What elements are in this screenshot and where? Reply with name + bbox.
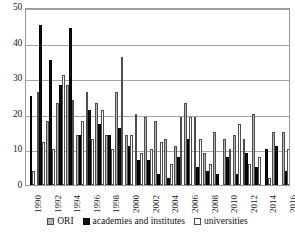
bar-univ-1999: [121, 57, 124, 185]
x-tick-label-2002: 2002: [152, 195, 161, 213]
bar-univ-1994: [72, 100, 75, 185]
y-tick-label: 40: [13, 39, 22, 49]
x-tick-label-1994: 1994: [73, 195, 82, 213]
legend-swatch-acad-icon: [83, 218, 90, 225]
y-axis: 01020304050: [0, 0, 25, 187]
bar-acad-2009: [216, 174, 219, 185]
x-tick-label-2008: 2008: [211, 195, 220, 213]
bar-univ-1995: [81, 121, 84, 185]
bar-univ-1996: [91, 139, 94, 185]
x-axis: 1990199219941996199820002002200420062008…: [25, 187, 290, 215]
legend-swatch-ori-icon: [47, 218, 54, 225]
bar-univ-2000: [130, 135, 133, 185]
bar-univ-1991: [42, 142, 45, 185]
year-group: [242, 9, 252, 185]
year-group: [134, 9, 144, 185]
year-group: [262, 9, 272, 185]
bar-univ-1998: [111, 149, 114, 185]
year-group: [163, 9, 173, 185]
year-group: [46, 9, 56, 185]
legend-item-ori[interactable]: ORI: [47, 216, 73, 226]
year-group: [212, 9, 222, 185]
x-tick-label-2000: 2000: [132, 195, 141, 213]
year-group: [232, 9, 242, 185]
y-tick-label: 10: [13, 145, 22, 155]
year-group: [222, 9, 232, 185]
bar-univ-2002: [150, 149, 153, 185]
bar-univ-2005: [180, 117, 183, 185]
year-group: [271, 9, 281, 185]
x-tick-label-2006: 2006: [191, 195, 200, 213]
x-tick-label-1992: 1992: [54, 195, 63, 213]
year-group: [193, 9, 203, 185]
bar-univ-2011: [238, 124, 241, 185]
year-group: [144, 9, 154, 185]
year-group: [124, 9, 134, 185]
bar-univ-1990: [32, 171, 35, 185]
year-group: [154, 9, 164, 185]
year-group: [95, 9, 105, 185]
year-group: [114, 9, 124, 185]
x-tick-label-1996: 1996: [93, 195, 102, 213]
bar-univ-1997: [101, 110, 104, 185]
legend-label: universities: [204, 216, 248, 226]
year-group: [36, 9, 46, 185]
year-group: [281, 9, 290, 185]
year-group: [55, 9, 65, 185]
legend-label: ORI: [57, 216, 73, 226]
year-group: [65, 9, 75, 185]
bar-univ-2007: [199, 139, 202, 185]
legend-label: academies and institutes: [93, 216, 185, 226]
bar-chart: 01020304050 1990199219941996199820002002…: [0, 0, 295, 234]
year-group: [105, 9, 115, 185]
bar-univ-2003: [160, 142, 163, 185]
y-tick-label: 0: [17, 181, 22, 191]
bar-univ-2012: [248, 164, 251, 185]
x-tick-label-2016: 2016: [289, 195, 295, 213]
legend-item-acad[interactable]: academies and institutes: [83, 216, 185, 226]
plot-area: [25, 8, 290, 186]
year-group: [183, 9, 193, 185]
x-tick-label-2014: 2014: [269, 195, 278, 213]
year-group: [203, 9, 213, 185]
bar-univ-2004: [170, 164, 173, 185]
bar-univ-2014: [268, 178, 271, 185]
bar-univ-2010: [229, 149, 232, 185]
year-group: [85, 9, 95, 185]
bars-layer: [26, 9, 289, 185]
bar-univ-2008: [209, 164, 212, 185]
year-group: [173, 9, 183, 185]
x-tick-label-2004: 2004: [171, 195, 180, 213]
legend-item-univ[interactable]: universities: [194, 216, 248, 226]
bar-univ-2001: [140, 153, 143, 185]
bar-univ-2013: [258, 157, 261, 185]
x-tick-label-1998: 1998: [112, 195, 121, 213]
year-group: [26, 9, 36, 185]
x-tick-label-1990: 1990: [34, 195, 43, 213]
chart-legend: ORIacademies and institutesuniversities: [0, 216, 295, 226]
legend-swatch-univ-icon: [194, 218, 201, 225]
y-tick-label: 20: [13, 110, 22, 120]
year-group: [75, 9, 85, 185]
y-tick-label: 30: [13, 74, 22, 84]
bar-acad-2015: [275, 146, 278, 185]
bar-univ-2016: [287, 149, 290, 185]
bar-univ-1993: [62, 75, 65, 185]
year-group: [252, 9, 262, 185]
bar-univ-2006: [189, 117, 192, 185]
x-tick-label-2012: 2012: [250, 195, 259, 213]
bar-univ-1992: [52, 149, 55, 185]
y-tick-label: 50: [13, 3, 22, 13]
x-tick-label-2010: 2010: [230, 195, 239, 213]
